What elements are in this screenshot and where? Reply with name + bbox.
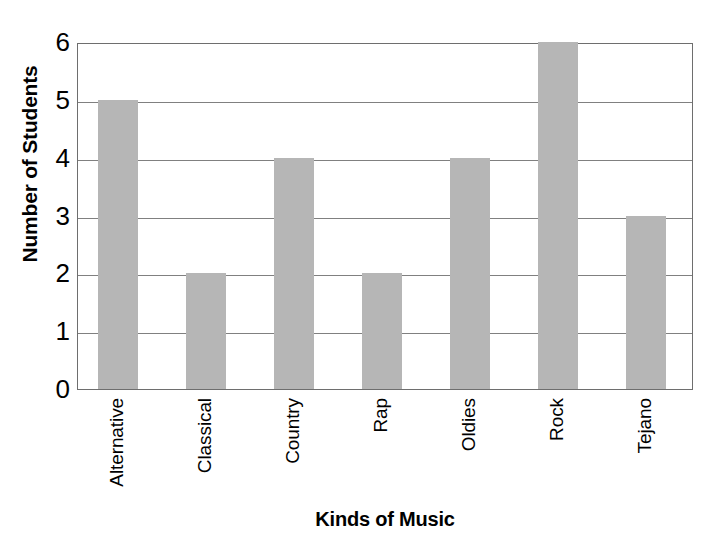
y-tick-label: 1	[40, 318, 70, 344]
bar	[274, 158, 314, 389]
x-tick: Tejano	[632, 392, 658, 497]
x-tick-label: Alternative	[106, 398, 128, 487]
bar	[186, 273, 226, 389]
y-tick-label: 0	[40, 376, 70, 402]
x-tick-label: Rap	[370, 398, 392, 433]
x-axis-tick-labels: AlternativeClassicalCountryRapOldiesRock…	[77, 392, 693, 497]
x-tick: Oldies	[456, 392, 482, 497]
plot-area	[77, 43, 693, 390]
x-tick-label: Tejano	[634, 398, 656, 453]
x-tick: Rock	[544, 392, 570, 497]
x-tick: Rap	[368, 392, 394, 497]
bar-chart: Number of Students 0123456 AlternativeCl…	[0, 0, 707, 546]
bar	[538, 42, 578, 389]
y-tick-label: 2	[40, 260, 70, 286]
x-tick-label: Country	[282, 398, 304, 464]
x-tick: Country	[280, 392, 306, 497]
y-tick-label: 5	[40, 87, 70, 113]
x-tick: Classical	[192, 392, 218, 497]
x-tick-label: Oldies	[458, 398, 480, 451]
y-axis-tick-labels: 0123456	[38, 0, 70, 546]
y-tick-label: 3	[40, 203, 70, 229]
x-axis-title: Kinds of Music	[77, 508, 693, 531]
bars	[78, 44, 692, 389]
x-tick-label: Rock	[546, 398, 568, 441]
bar	[626, 216, 666, 390]
x-tick: Alternative	[104, 392, 130, 497]
bar	[450, 158, 490, 389]
bar	[362, 273, 402, 389]
x-tick-label: Classical	[194, 398, 216, 473]
bar	[98, 100, 138, 389]
y-tick-label: 6	[40, 29, 70, 55]
y-tick-label: 4	[40, 145, 70, 171]
